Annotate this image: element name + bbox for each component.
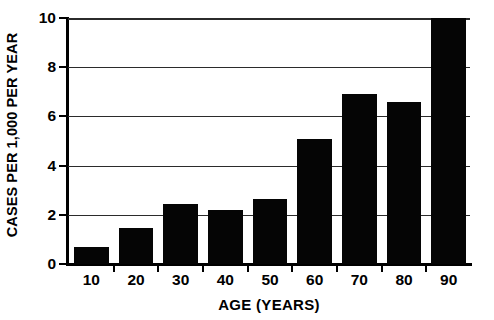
bar-10 bbox=[74, 247, 109, 264]
y-tick-mark bbox=[59, 66, 67, 68]
x-tick-label: 60 bbox=[292, 272, 338, 288]
x-tick-label: 90 bbox=[426, 272, 472, 288]
y-tick-label: 8 bbox=[22, 59, 56, 75]
bar-30 bbox=[163, 204, 198, 264]
bar-80 bbox=[387, 102, 422, 264]
bar-90 bbox=[431, 18, 466, 264]
y-tick-label: 10 bbox=[22, 10, 56, 26]
y-tick-mark bbox=[59, 214, 67, 216]
x-axis-title: AGE (YEARS) bbox=[68, 296, 470, 313]
x-tick-label: 20 bbox=[113, 272, 159, 288]
x-tick-label: 70 bbox=[336, 272, 382, 288]
y-tick-label: 4 bbox=[22, 158, 56, 174]
x-tick-label: 30 bbox=[158, 272, 204, 288]
y-tick-label: 0 bbox=[22, 256, 56, 272]
bar-50 bbox=[253, 199, 288, 264]
gridline bbox=[68, 18, 470, 20]
bar-40 bbox=[208, 210, 243, 264]
plot-area bbox=[68, 18, 470, 264]
y-tick-mark bbox=[59, 115, 67, 117]
gridline bbox=[68, 67, 470, 68]
y-axis-title: CASES PER 1,000 PER YEAR bbox=[0, 0, 24, 270]
x-tick-label: 10 bbox=[68, 272, 114, 288]
x-tick-label: 80 bbox=[381, 272, 427, 288]
y-tick-label: 2 bbox=[22, 207, 56, 223]
bar-20 bbox=[119, 228, 154, 264]
bar-60 bbox=[297, 139, 332, 264]
y-tick-mark bbox=[59, 165, 67, 167]
bar-70 bbox=[342, 94, 377, 264]
y-tick-label: 6 bbox=[22, 108, 56, 124]
x-tick-label: 50 bbox=[247, 272, 293, 288]
bar-chart-figure: CASES PER 1,000 PER YEAR 0246810 1020304… bbox=[0, 0, 494, 320]
y-axis-title-text: CASES PER 1,000 PER YEAR bbox=[4, 33, 20, 237]
y-tick-mark bbox=[59, 263, 67, 265]
y-tick-mark bbox=[59, 17, 67, 19]
x-tick-label: 40 bbox=[202, 272, 248, 288]
